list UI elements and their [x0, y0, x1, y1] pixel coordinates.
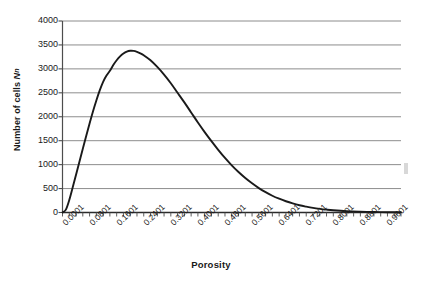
x-axis-title: Porosity — [0, 259, 422, 270]
chart-figure: Number of cells Nn 050010001500200025003… — [0, 0, 422, 281]
scan-artifact — [404, 163, 408, 174]
plot-area — [0, 0, 422, 281]
gridlines — [63, 21, 402, 189]
